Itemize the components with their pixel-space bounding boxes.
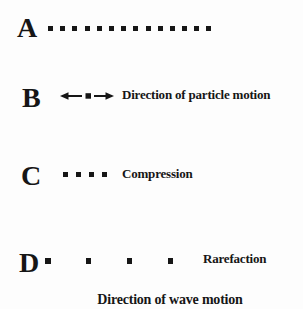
particle-dot — [86, 258, 92, 264]
particle-dot — [63, 172, 68, 177]
rarefaction-caption: Rarefaction — [203, 251, 266, 267]
particle-dot — [121, 26, 126, 31]
particle-dot — [146, 26, 151, 31]
row-label-b: B — [22, 84, 41, 112]
particle-dot — [89, 172, 94, 177]
particle-row-rarefaction — [45, 258, 173, 264]
particle-dot — [182, 26, 187, 31]
particle-dot — [60, 26, 65, 31]
particle-dot — [206, 26, 211, 31]
particle-dot — [72, 26, 77, 31]
particle-dot — [127, 258, 133, 264]
particle-dot — [194, 26, 199, 31]
particle-row-undisturbed — [48, 26, 211, 31]
particle-dot — [102, 172, 107, 177]
particle-dot — [86, 93, 92, 99]
particle-dot — [109, 26, 114, 31]
particle-motion-arrows — [59, 89, 115, 103]
particle-dot — [76, 172, 81, 177]
row-label-d: D — [19, 249, 39, 277]
wave-motion-diagram: A B Direction of particle motion C Compr… — [0, 0, 303, 309]
particle-dot — [158, 26, 163, 31]
particle-dot — [133, 26, 138, 31]
right-arrow-icon — [94, 92, 114, 100]
particle-dot — [97, 26, 102, 31]
particle-dot — [48, 26, 53, 31]
wave-motion-caption: Direction of wave motion — [37, 292, 303, 308]
particle-row-compression — [63, 172, 107, 177]
particle-motion-caption: Direction of particle motion — [122, 87, 270, 103]
particle-dot — [85, 26, 90, 31]
row-label-c: C — [21, 162, 41, 190]
particle-dot — [168, 258, 174, 264]
particle-dot — [45, 258, 51, 264]
left-arrow-icon — [60, 92, 82, 100]
particle-dot — [170, 26, 175, 31]
row-label-a: A — [17, 14, 37, 42]
compression-caption: Compression — [122, 166, 193, 182]
